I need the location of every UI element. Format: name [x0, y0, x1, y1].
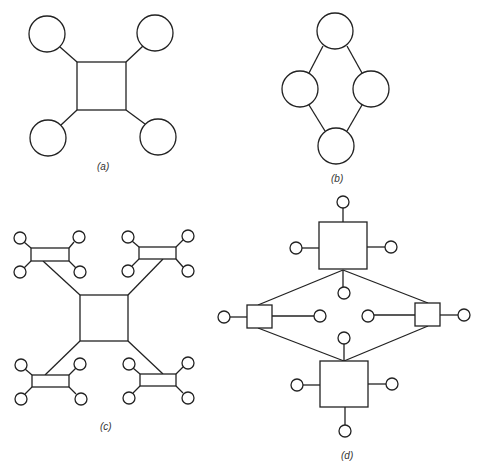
node-circle	[123, 358, 135, 370]
sub-hub-rect	[32, 375, 69, 387]
large-node-square	[319, 222, 367, 269]
node-circle	[30, 120, 66, 156]
hub-square	[77, 62, 126, 110]
node-circle	[318, 128, 354, 164]
panel-b-ring: (b)	[282, 13, 389, 184]
node-circle	[458, 309, 470, 321]
node-circle	[14, 232, 26, 244]
node-circle	[137, 15, 173, 51]
node-circle	[123, 392, 135, 404]
node-circle	[182, 392, 194, 404]
caption-b: (b)	[331, 173, 343, 184]
node-circle	[282, 71, 318, 107]
node-circle	[291, 379, 303, 391]
panel-d-mesh: (d)	[218, 196, 470, 461]
small-node-square	[247, 305, 272, 328]
caption-a: (a)	[97, 161, 109, 172]
node-circle	[182, 230, 194, 242]
node-circle	[317, 13, 353, 49]
sub-hub-rect	[140, 374, 176, 386]
node-circle	[353, 71, 389, 107]
node-circle	[386, 378, 398, 390]
node-circle	[122, 231, 134, 243]
node-circle	[218, 311, 230, 323]
small-node-square	[415, 303, 440, 326]
network-topology-figure: (a) (b)	[0, 0, 481, 468]
node-circle	[290, 242, 302, 254]
node-circle	[75, 393, 87, 405]
node-circle	[15, 393, 27, 405]
node-circle	[385, 241, 397, 253]
sub-hub-rect	[31, 248, 69, 261]
node-circle	[74, 266, 86, 278]
node-circle	[73, 231, 85, 243]
node-circle	[314, 310, 326, 322]
node-circle	[74, 358, 86, 370]
caption-d: (d)	[341, 450, 353, 461]
hub-square	[80, 295, 128, 341]
sub-hub-rect	[139, 247, 176, 259]
node-circle	[14, 266, 26, 278]
node-circle	[338, 287, 350, 299]
node-circle	[29, 16, 65, 52]
panel-c-hierarchical-star: (c)	[14, 230, 194, 432]
node-circle	[182, 357, 194, 369]
node-circle	[15, 359, 27, 371]
node-circle	[122, 265, 134, 277]
node-circle	[362, 310, 374, 322]
panel-a-star: (a)	[29, 15, 176, 172]
caption-c: (c)	[100, 421, 112, 432]
node-circle	[182, 265, 194, 277]
node-circle	[339, 425, 351, 437]
node-circle	[338, 332, 350, 344]
node-circle	[140, 119, 176, 155]
node-circle	[337, 196, 349, 208]
large-node-square	[320, 361, 368, 407]
